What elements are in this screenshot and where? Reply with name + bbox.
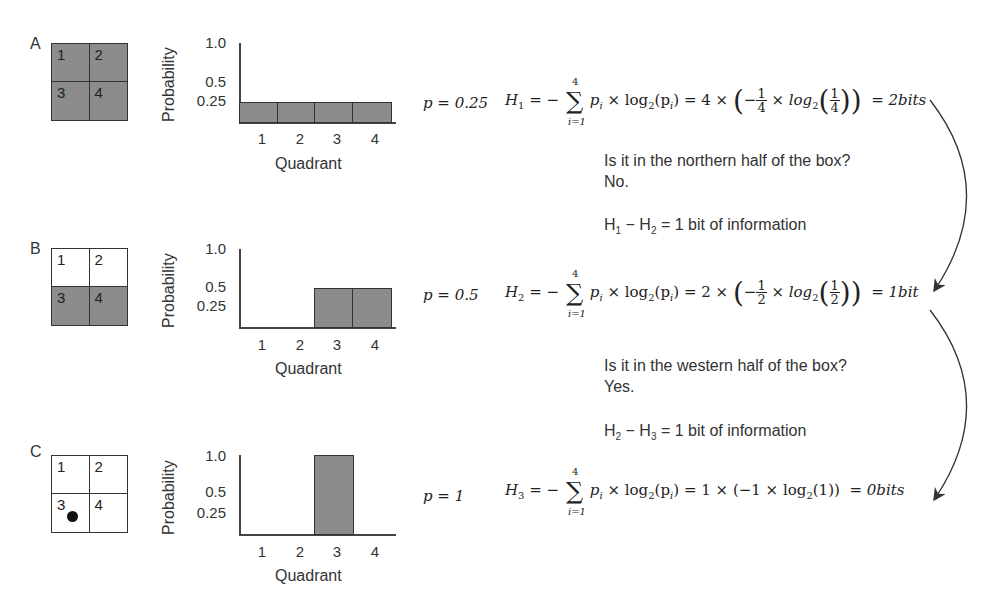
arrow-a-to-b-icon [930,100,967,288]
flow-arrows [0,0,995,610]
arrow-b-to-c-icon [930,310,967,497]
